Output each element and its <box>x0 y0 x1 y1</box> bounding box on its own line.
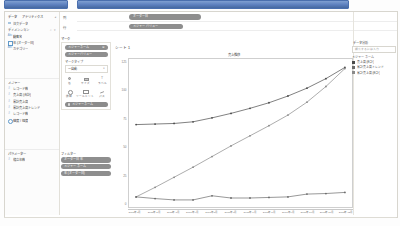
x-tick-label: 2018年10月 <box>300 210 314 214</box>
x-tick-label: 2018年4月 <box>186 210 199 214</box>
marks-button-color[interactable]: 色 <box>65 75 74 87</box>
dimensions-header: ディメンション ⌕ ▾ <box>5 26 59 33</box>
abc-icon <box>8 47 11 50</box>
x-tick-label: 2018年9月 <box>282 210 295 214</box>
marks-type-select[interactable]: 一 自動 ▾ <box>65 65 108 73</box>
dimension-label: 顧客名 <box>13 34 22 39</box>
detail-icon <box>67 90 71 94</box>
color-icon <box>67 77 71 81</box>
filter-pill-2[interactable]: 年 (オーダー日) <box>61 171 111 176</box>
marks-button-label: 色 <box>68 81 71 85</box>
columns-shelf[interactable]: 列 オーダー日 <box>60 14 397 22</box>
data-point <box>192 166 194 168</box>
marks-card: マーク メジャー ネーム ⊞ メジャー バリュー マークタイプ 一 自動 ▾ <box>61 36 111 148</box>
parameter-item-0[interactable]: 積立年数 <box>5 157 59 163</box>
dimension-label: 年 (オーダー日) <box>13 40 34 45</box>
columns-pill[interactable]: オーダー日 <box>129 14 201 20</box>
datasource-label: 注文データ <box>13 21 28 26</box>
data-point <box>211 195 213 197</box>
columns-shelf-well[interactable]: オーダー日 <box>77 14 397 22</box>
chart-title: 売上推移 <box>115 52 353 57</box>
y-tick-label: 100 <box>121 88 126 92</box>
collapse-caret-icon[interactable]: ◂ <box>54 15 56 19</box>
sidebar-tabs: データ アナリティクス ◂ <box>5 12 59 20</box>
legend-label: 累計売上高 (合計) <box>357 71 381 75</box>
marks-pill-flag-icon: ⊞ <box>102 45 104 50</box>
marks-button-tooltip[interactable]: ツール ヒント <box>75 88 96 100</box>
x-tick-label: 2018年8月 <box>263 210 276 214</box>
tab-data[interactable]: データ <box>8 14 17 19</box>
filters-card: フィルター オーダー日 年 メジャー ネーム 年 (オーダー日) <box>61 151 111 178</box>
marks-button-path[interactable]: パス <box>97 88 108 100</box>
data-point <box>287 114 289 116</box>
legend-swatch <box>352 61 355 64</box>
legend-title: メジャー ネーム <box>352 55 396 59</box>
data-point <box>230 197 232 199</box>
number-icon <box>8 158 11 161</box>
data-point <box>325 193 327 195</box>
series-line-0 <box>136 67 345 124</box>
legend-swatch <box>352 66 355 69</box>
data-point <box>230 112 232 114</box>
data-point <box>135 196 137 198</box>
rows-shelf-well[interactable]: メジャー バリュー <box>77 23 397 31</box>
x-tick-label: 2018年2月 <box>148 210 161 214</box>
data-point <box>173 123 175 125</box>
data-pane-sidebar: データ アナリティクス ◂ 注文データ ディメンション ⌕ ▾ 顧客名 年 (オ… <box>5 12 60 215</box>
legend-item-0[interactable]: 売上高 (合計) <box>352 60 396 64</box>
data-point <box>230 145 232 147</box>
data-point <box>325 78 327 80</box>
marks-pill-1[interactable]: メジャー バリュー <box>65 52 108 57</box>
chart-area: 売上推移 0255075100125 2018年1月2018年2月2018年3月… <box>115 52 353 226</box>
x-tick-label: 2018年7月 <box>244 210 257 214</box>
data-point <box>325 86 327 88</box>
toolbar-segment-left[interactable] <box>4 0 68 9</box>
data-point <box>268 125 270 127</box>
marks-button-label: サイズ <box>81 81 90 85</box>
marks-button-label[interactable]: ラベル <box>97 75 108 87</box>
x-tick-label: 2018年3月 <box>167 210 180 214</box>
data-point <box>268 102 270 104</box>
tooltip-icon <box>83 90 87 94</box>
marks-type-label: マークタイプ <box>65 59 108 64</box>
marks-button-detail[interactable]: 詳細 <box>65 88 74 100</box>
number-icon <box>8 99 11 102</box>
rows-shelf[interactable]: 行 メジャー バリュー <box>60 23 397 31</box>
marks-pill-label: メジャー ネーム <box>68 45 90 50</box>
marks-pill-0[interactable]: メジャー ネーム ⊞ <box>65 45 108 50</box>
legend-label: 売上高 (合計) <box>357 60 375 64</box>
legend-item-1[interactable]: 累計売上高トレンド <box>352 65 396 69</box>
data-point <box>249 135 251 137</box>
legend-item-2[interactable]: 累計売上高 (合計) <box>352 71 396 75</box>
data-point <box>211 156 213 158</box>
measure-label: レコード数 <box>13 86 28 91</box>
marks-button-size[interactable]: サイズ <box>75 75 96 87</box>
globe-icon <box>8 119 11 122</box>
dimensions-controls-icon[interactable]: ⌕ ▾ <box>50 28 56 32</box>
marks-detail-pill[interactable]: メジャー ネーム <box>65 102 108 107</box>
filters-card-title: フィルター <box>61 151 111 156</box>
workbook-frame: データ アナリティクス ◂ 注文データ ディメンション ⌕ ▾ 顧客名 年 (オ… <box>4 11 398 218</box>
right-panel-title: データ分析 <box>352 40 396 45</box>
x-tick-label: 2018年6月 <box>224 210 237 214</box>
worksheet-tab[interactable]: シート 1 <box>115 45 130 50</box>
rows-pill[interactable]: メジャー バリュー <box>129 24 183 30</box>
number-icon <box>8 106 11 109</box>
search-input[interactable]: 検索するには入力 <box>352 46 396 53</box>
data-point <box>192 199 194 201</box>
status-bar <box>4 217 396 223</box>
path-icon <box>100 90 104 94</box>
abc-icon <box>8 34 11 37</box>
plot-canvas[interactable] <box>128 58 353 208</box>
measure-label: 累計売上高トレンド <box>13 105 40 110</box>
data-point <box>173 199 175 201</box>
tab-analytics[interactable]: アナリティクス <box>22 14 43 19</box>
marks-detail-pill-label: メジャー ネーム <box>72 102 94 107</box>
measure-label: 累計売上高 <box>13 99 28 104</box>
dimension-label: カテゴリー <box>13 46 28 51</box>
number-icon <box>8 112 11 115</box>
filter-pill-0[interactable]: オーダー日 年 <box>61 157 111 162</box>
toolbar-segment-right[interactable] <box>77 0 349 9</box>
series-line-1 <box>136 69 345 197</box>
filter-pill-1[interactable]: メジャー ネーム <box>61 164 111 169</box>
